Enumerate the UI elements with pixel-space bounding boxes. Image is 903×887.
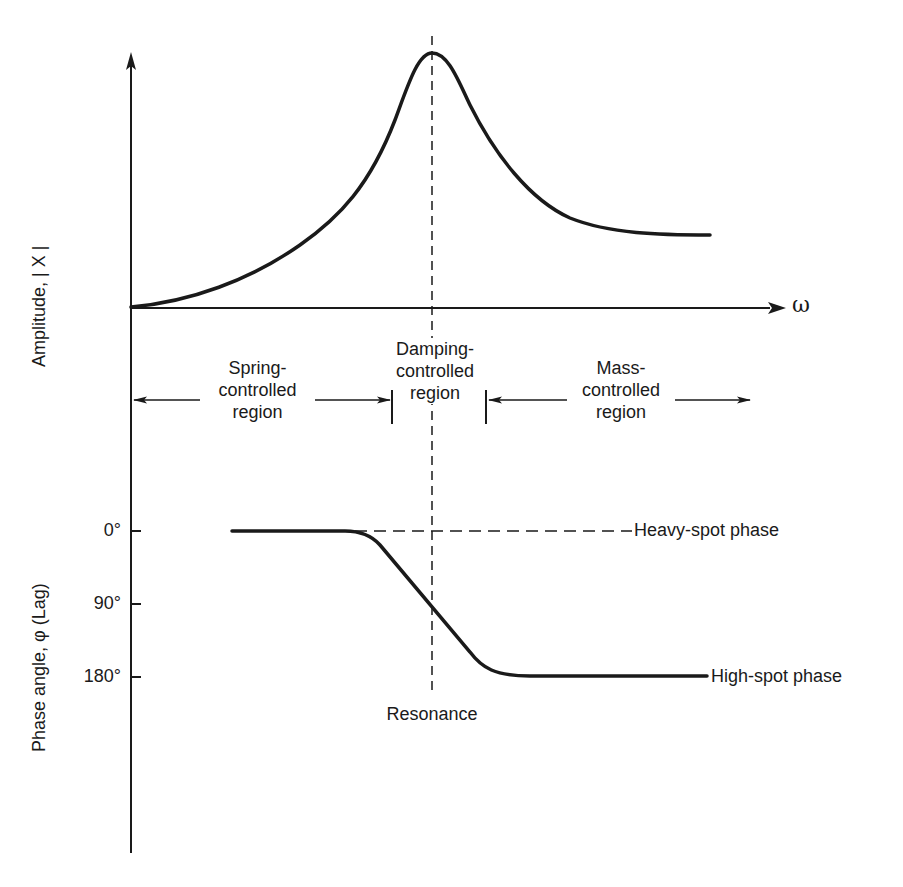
spring-label-line3: region bbox=[200, 401, 315, 423]
spring-label-line1: Spring- bbox=[200, 357, 315, 379]
damping-label-line1: Damping- bbox=[396, 338, 474, 360]
diagram-canvas bbox=[0, 0, 903, 887]
amplitude-axis-label: Amplitude, | X | bbox=[29, 246, 50, 367]
mass-controlled-region-label: Mass- controlled region bbox=[567, 357, 675, 423]
resonance-label: Resonance bbox=[372, 704, 492, 725]
heavy-spot-phase-label: Heavy-spot phase bbox=[634, 520, 779, 541]
phase-curve bbox=[232, 531, 707, 676]
damping-controlled-region-label: Damping- controlled region bbox=[385, 338, 485, 404]
phase-tick-90: 90° bbox=[61, 593, 121, 614]
vertical-axis bbox=[126, 52, 136, 853]
phase-axis-label: Phase angle, φ (Lag) bbox=[29, 583, 50, 752]
resonance-diagram: Amplitude, | X | ω Spring- controlled re… bbox=[0, 0, 903, 887]
damping-label-line3: region bbox=[407, 382, 463, 404]
amplitude-curve bbox=[131, 53, 710, 307]
mass-label-line2: controlled bbox=[567, 379, 675, 401]
phase-tick-180: 180° bbox=[61, 666, 121, 687]
omega-axis-arrowhead-icon bbox=[768, 302, 786, 314]
high-spot-phase-label: High-spot phase bbox=[711, 666, 842, 687]
spring-controlled-region-label: Spring- controlled region bbox=[200, 357, 315, 423]
omega-axis bbox=[131, 302, 786, 314]
mass-label-line3: region bbox=[567, 401, 675, 423]
phase-ticks bbox=[131, 531, 141, 677]
damping-label-line2: controlled bbox=[385, 360, 485, 382]
phase-tick-0: 0° bbox=[61, 520, 121, 541]
omega-axis-label: ω bbox=[792, 292, 810, 317]
spring-label-line2: controlled bbox=[200, 379, 315, 401]
mass-label-line1: Mass- bbox=[567, 357, 675, 379]
